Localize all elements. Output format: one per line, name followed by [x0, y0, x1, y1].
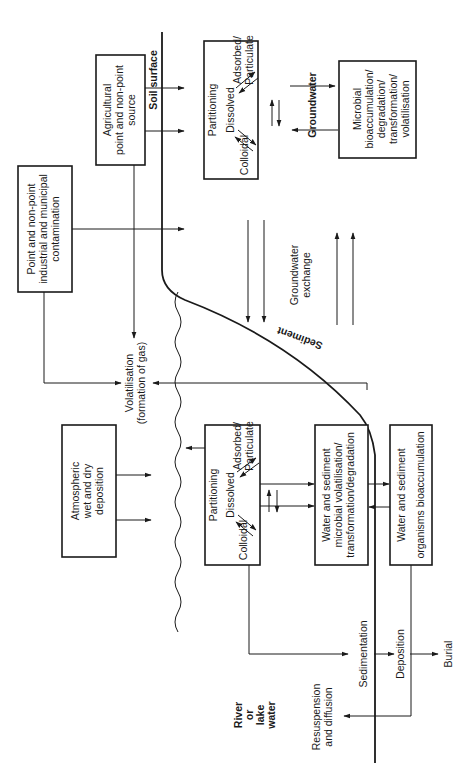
river-lake-water-label: River or lake water — [232, 701, 277, 729]
svg-text:Partitioning: Partitioning — [206, 84, 218, 137]
svg-text:transformation/degradation: transformation/degradation — [344, 432, 356, 558]
point-nonpoint-source-box: Point and non-point industrial and munic… — [18, 166, 72, 292]
svg-text:exchange: exchange — [300, 252, 312, 298]
burial-label: Burial — [442, 641, 454, 668]
water-surface-wave — [175, 292, 181, 632]
svg-text:point and non-point: point and non-point — [113, 65, 125, 155]
svg-text:transformation/: transformation/ — [387, 74, 399, 144]
groundwater-label: Groundwater — [306, 72, 318, 137]
svg-text:Soil surface: Soil surface — [147, 50, 159, 110]
water-partitioning-box: Partitioning Dissolved Adsorbed/ Particu… — [205, 421, 260, 565]
svg-text:microbial volatilisation/: microbial volatilisation/ — [332, 442, 344, 547]
svg-text:Microbial: Microbial — [351, 88, 363, 130]
agricultural-source-box: Agricultural point and non-point source — [96, 55, 145, 165]
svg-text:(formation of gas): (formation of gas) — [135, 342, 147, 424]
svg-text:industrial and municipal: industrial and municipal — [37, 174, 49, 284]
svg-text:Volatilisation: Volatilisation — [123, 354, 135, 413]
soil-surface-label: Soil surface — [147, 50, 159, 110]
atmospheric-deposition-box: Atmospheric wet and dry deposition — [62, 425, 116, 557]
arrow-water-microbial-to-volatilisation — [153, 383, 367, 390]
svg-text:degradation/: degradation/ — [375, 80, 387, 138]
svg-text:water: water — [265, 701, 277, 729]
svg-text:Adsorbed/: Adsorbed/ — [231, 422, 243, 470]
svg-text:Water and sediment: Water and sediment — [320, 448, 332, 542]
svg-text:volatilisation: volatilisation — [399, 80, 411, 137]
svg-text:Adsorbed/: Adsorbed/ — [231, 36, 243, 84]
water-sediment-microbial-box: Water and sediment microbial volatilisat… — [315, 425, 368, 565]
svg-text:Burial: Burial — [442, 641, 454, 668]
svg-text:and diffusion: and diffusion — [322, 687, 334, 747]
microbial-box: Microbial bioaccumulation/ degradation/ … — [339, 61, 416, 158]
svg-text:Point and non-point: Point and non-point — [25, 183, 37, 274]
svg-text:Sedimentation: Sedimentation — [357, 620, 369, 687]
svg-text:Colloidal: Colloidal — [237, 520, 249, 560]
contaminant-fate-diagram: Soil surface Sediment Agricultural point… — [0, 0, 464, 763]
svg-text:Water and sediment: Water and sediment — [395, 448, 407, 542]
sedimentation-label: Sedimentation — [357, 620, 369, 687]
arrow-partitioning-to-sedimentation — [249, 565, 348, 654]
svg-text:deposition: deposition — [93, 467, 105, 515]
svg-text:Dissolved: Dissolved — [224, 472, 236, 518]
svg-text:source: source — [125, 94, 137, 126]
svg-text:bioaccumulation/: bioaccumulation/ — [363, 70, 375, 149]
svg-text:Agricultural: Agricultural — [101, 84, 113, 137]
groundwater-exchange-label: Groundwater exchange — [288, 244, 312, 305]
resuspension-label: Resuspension and diffusion — [310, 684, 334, 751]
arrow-point-to-volatilisation — [44, 292, 121, 383]
svg-text:Groundwater: Groundwater — [306, 72, 318, 137]
svg-text:wet and dry: wet and dry — [81, 463, 93, 519]
soil-partitioning-box: Partitioning Dissolved Adsorbed/ Particu… — [204, 35, 279, 179]
organisms-bioaccumulation-box: Water and sediment organisms bioaccumula… — [390, 425, 432, 565]
svg-text:organisms bioaccumulation: organisms bioaccumulation — [414, 431, 426, 558]
svg-text:contamination: contamination — [49, 196, 61, 262]
volatilisation-label: Volatilisation (formation of gas) — [123, 342, 147, 424]
svg-text:Deposition: Deposition — [394, 629, 406, 679]
svg-text:Partitioning: Partitioning — [207, 469, 219, 522]
svg-text:Resuspension: Resuspension — [310, 684, 322, 751]
svg-text:Groundwater: Groundwater — [288, 244, 300, 305]
deposition-label: Deposition — [394, 629, 406, 679]
svg-text:Dissolved: Dissolved — [224, 87, 236, 133]
svg-text:Atmospheric: Atmospheric — [69, 462, 81, 520]
